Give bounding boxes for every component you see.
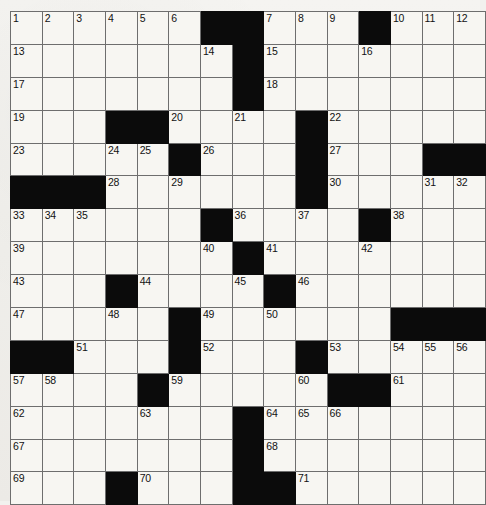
grid-cell[interactable] — [42, 110, 74, 143]
grid-cell[interactable]: 7 — [264, 12, 296, 45]
grid-cell[interactable]: 49 — [200, 308, 232, 341]
grid-cell[interactable] — [232, 176, 264, 209]
grid-cell[interactable] — [422, 77, 454, 110]
grid-cell[interactable] — [42, 406, 74, 439]
grid-cell[interactable] — [200, 373, 232, 406]
grid-cell[interactable] — [359, 176, 391, 209]
grid-cell[interactable] — [74, 44, 106, 77]
grid-cell[interactable] — [327, 242, 359, 275]
grid-cell[interactable]: 31 — [422, 176, 454, 209]
grid-cell[interactable] — [137, 176, 169, 209]
grid-cell[interactable] — [327, 275, 359, 308]
grid-cell[interactable] — [359, 77, 391, 110]
grid-cell[interactable] — [359, 110, 391, 143]
grid-cell[interactable]: 71 — [295, 472, 327, 505]
grid-cell[interactable]: 67 — [11, 439, 43, 472]
grid-cell[interactable] — [137, 308, 169, 341]
grid-cell[interactable] — [390, 143, 422, 176]
grid-cell[interactable]: 25 — [137, 143, 169, 176]
grid-cell[interactable]: 50 — [264, 308, 296, 341]
grid-cell[interactable]: 58 — [42, 373, 74, 406]
grid-cell[interactable]: 51 — [74, 340, 106, 373]
grid-cell[interactable] — [422, 373, 454, 406]
grid-cell[interactable] — [422, 275, 454, 308]
grid-cell[interactable]: 21 — [232, 110, 264, 143]
grid-cell[interactable]: 69 — [11, 472, 43, 505]
grid-cell[interactable]: 34 — [42, 209, 74, 242]
grid-cell[interactable] — [422, 44, 454, 77]
grid-cell[interactable]: 24 — [105, 143, 137, 176]
grid-cell[interactable] — [169, 472, 201, 505]
grid-cell[interactable] — [390, 77, 422, 110]
grid-cell[interactable]: 32 — [454, 176, 486, 209]
grid-cell[interactable] — [105, 340, 137, 373]
grid-cell[interactable] — [454, 44, 486, 77]
grid-cell[interactable] — [232, 143, 264, 176]
grid-cell[interactable]: 27 — [327, 143, 359, 176]
grid-cell[interactable] — [232, 373, 264, 406]
grid-cell[interactable]: 23 — [11, 143, 43, 176]
grid-cell[interactable]: 62 — [11, 406, 43, 439]
grid-cell[interactable] — [327, 209, 359, 242]
grid-cell[interactable]: 33 — [11, 209, 43, 242]
grid-cell[interactable] — [359, 406, 391, 439]
grid-cell[interactable] — [390, 44, 422, 77]
grid-cell[interactable] — [74, 275, 106, 308]
grid-cell[interactable] — [200, 472, 232, 505]
grid-cell[interactable] — [200, 439, 232, 472]
grid-cell[interactable] — [42, 44, 74, 77]
grid-cell[interactable] — [454, 373, 486, 406]
grid-cell[interactable] — [295, 77, 327, 110]
grid-cell[interactable] — [454, 77, 486, 110]
grid-cell[interactable] — [169, 242, 201, 275]
grid-cell[interactable]: 53 — [327, 340, 359, 373]
grid-cell[interactable] — [74, 439, 106, 472]
grid-cell[interactable]: 41 — [264, 242, 296, 275]
grid-cell[interactable]: 37 — [295, 209, 327, 242]
grid-cell[interactable]: 6 — [169, 12, 201, 45]
grid-cell[interactable]: 1 — [11, 12, 43, 45]
grid-cell[interactable]: 70 — [137, 472, 169, 505]
grid-cell[interactable] — [42, 77, 74, 110]
grid-cell[interactable] — [169, 77, 201, 110]
grid-cell[interactable]: 48 — [105, 308, 137, 341]
grid-cell[interactable]: 19 — [11, 110, 43, 143]
grid-cell[interactable]: 22 — [327, 110, 359, 143]
grid-cell[interactable]: 64 — [264, 406, 296, 439]
grid-cell[interactable] — [390, 472, 422, 505]
grid-cell[interactable]: 36 — [232, 209, 264, 242]
grid-cell[interactable] — [42, 275, 74, 308]
grid-cell[interactable] — [74, 308, 106, 341]
grid-cell[interactable]: 61 — [390, 373, 422, 406]
grid-cell[interactable] — [264, 373, 296, 406]
grid-cell[interactable]: 11 — [422, 12, 454, 45]
grid-cell[interactable] — [169, 406, 201, 439]
grid-cell[interactable]: 20 — [169, 110, 201, 143]
grid-cell[interactable] — [42, 242, 74, 275]
grid-cell[interactable]: 8 — [295, 12, 327, 45]
grid-cell[interactable] — [105, 406, 137, 439]
grid-cell[interactable]: 42 — [359, 242, 391, 275]
grid-cell[interactable] — [359, 340, 391, 373]
grid-cell[interactable] — [422, 439, 454, 472]
grid-cell[interactable] — [137, 44, 169, 77]
grid-cell[interactable] — [264, 209, 296, 242]
grid-cell[interactable]: 52 — [200, 340, 232, 373]
grid-cell[interactable] — [74, 242, 106, 275]
grid-cell[interactable]: 35 — [74, 209, 106, 242]
grid-cell[interactable] — [454, 242, 486, 275]
grid-cell[interactable] — [42, 439, 74, 472]
grid-cell[interactable] — [390, 275, 422, 308]
grid-cell[interactable] — [454, 110, 486, 143]
grid-cell[interactable] — [454, 472, 486, 505]
grid-cell[interactable]: 10 — [390, 12, 422, 45]
grid-cell[interactable] — [359, 308, 391, 341]
grid-cell[interactable]: 60 — [295, 373, 327, 406]
grid-cell[interactable] — [390, 176, 422, 209]
grid-cell[interactable] — [42, 143, 74, 176]
grid-cell[interactable]: 56 — [454, 340, 486, 373]
grid-cell[interactable]: 28 — [105, 176, 137, 209]
grid-cell[interactable] — [200, 77, 232, 110]
grid-cell[interactable]: 16 — [359, 44, 391, 77]
grid-cell[interactable]: 63 — [137, 406, 169, 439]
